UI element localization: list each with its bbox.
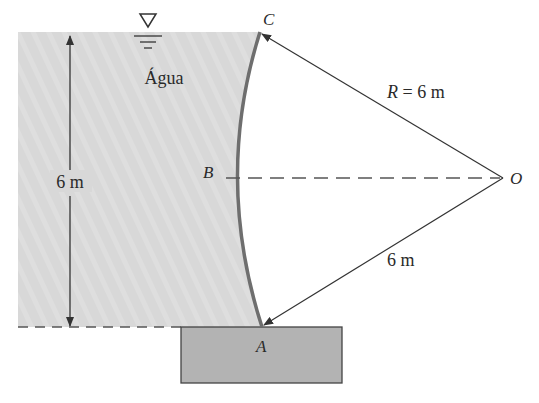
point-label-b: B — [203, 163, 214, 182]
radius-line-oc — [262, 34, 503, 178]
height-label: 6 m — [56, 172, 84, 192]
radius-line-oa — [264, 178, 503, 325]
lower-radius-label: 6 m — [387, 250, 415, 270]
radius-label: R = 6 m — [386, 82, 445, 102]
point-label-o: O — [510, 169, 522, 188]
fluid-label: Água — [145, 67, 184, 88]
point-label-c: C — [263, 10, 275, 29]
diagram-canvas: Água 6 m C B A O R = 6 m 6 m — [0, 0, 539, 403]
radius-label-value: = 6 m — [398, 82, 445, 102]
radius-label-var: R — [386, 82, 398, 102]
point-label-a: A — [255, 337, 267, 356]
